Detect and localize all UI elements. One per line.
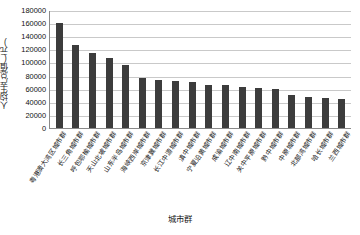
bar [288,95,295,128]
bar [255,88,262,128]
bar [322,98,329,128]
bar-slot [317,11,334,128]
plot-area [49,11,351,129]
y-axis-ticks: 1800001600001400001200001000008000060000… [13,11,48,129]
y-tick-label: 80000 [12,73,46,80]
bar-slot [234,11,251,128]
bar [172,81,179,128]
bar-slot [284,11,301,128]
bar-slot [68,11,85,128]
y-tick-label: 180000 [12,7,46,14]
bar [72,45,79,128]
bar-slot [167,11,184,128]
bar [189,82,196,128]
y-tick-label: 0 [12,125,46,132]
y-tick-label: 160000 [12,20,46,27]
bar-slot [250,11,267,128]
bar [56,23,63,128]
bar [222,85,229,128]
bar-slot [333,11,350,128]
bar [338,99,345,128]
x-axis-ticks: 粤港澳大湾区城市群长三角城市群呼包鄂榆城市群天山北坡城市群山东半岛城市群海峡西岸… [49,130,351,208]
bar [305,97,312,128]
y-tick-label: 120000 [12,47,46,54]
bar [155,80,162,129]
bar-slot [51,11,68,128]
bar [139,78,146,128]
bar [205,85,212,128]
y-tick-label: 100000 [12,60,46,67]
bar-slot [200,11,217,128]
bar-slot [101,11,118,128]
bar-slot [217,11,234,128]
y-tick-label: 60000 [12,86,46,93]
bar-slot [184,11,201,128]
x-axis-title: 城市群 [0,212,360,224]
bar-slot [151,11,168,128]
bar [272,89,279,128]
bar-slot [117,11,134,128]
bar [122,65,129,128]
bar [239,87,246,128]
bar-chart: 人均生产总值(元) 180000160000140000120000100000… [0,0,360,235]
bar-slot [134,11,151,128]
bar-slot [267,11,284,128]
y-tick-label: 40000 [12,99,46,106]
bars-container [50,11,351,128]
y-tick-label: 20000 [12,112,46,119]
bar [106,58,113,128]
y-tick-label: 140000 [12,34,46,41]
bar [89,53,96,128]
bar-slot [84,11,101,128]
bar-slot [300,11,317,128]
